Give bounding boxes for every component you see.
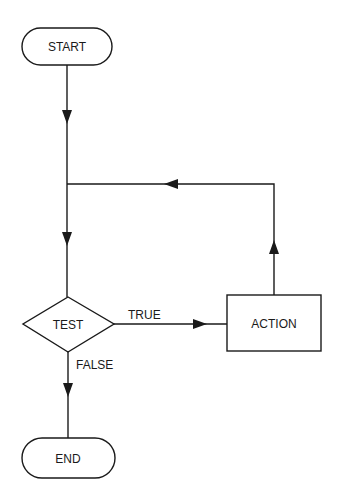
action-node: ACTION <box>227 295 321 351</box>
action-label: ACTION <box>251 317 296 331</box>
arrow-down-icon <box>63 383 73 397</box>
arrow-down-icon <box>62 232 72 246</box>
arrow-down-icon <box>62 110 72 124</box>
edge-action-loop-back <box>67 179 279 295</box>
arrow-right-icon <box>193 319 207 329</box>
arrow-left-icon <box>164 179 178 189</box>
flowchart-canvas: START TEST TRUE ACTION FALSE END <box>0 0 340 503</box>
end-label: END <box>55 452 81 466</box>
end-node: END <box>22 438 115 478</box>
start-label: START <box>48 40 87 54</box>
test-node: TEST <box>23 297 114 352</box>
false-label: FALSE <box>76 358 113 372</box>
edge-false: FALSE <box>63 352 113 438</box>
arrow-up-icon <box>269 240 279 254</box>
start-node: START <box>22 28 112 65</box>
edge-start-to-test <box>62 65 72 297</box>
true-label: TRUE <box>128 308 161 322</box>
test-label: TEST <box>53 318 84 332</box>
edge-true: TRUE <box>114 308 227 329</box>
